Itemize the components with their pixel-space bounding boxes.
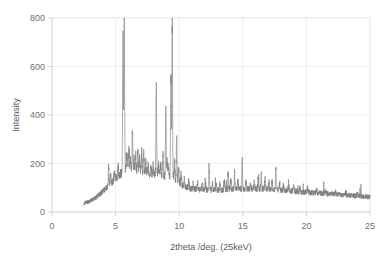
x-tick-label: 25 (365, 221, 375, 231)
y-axis-title: Intensity (11, 98, 21, 132)
y-tick-label: 600 (30, 62, 45, 72)
tick-labels: 02004006008000510152025 (30, 13, 375, 231)
y-tick-label: 800 (30, 13, 45, 23)
x-tick-label: 5 (113, 221, 118, 231)
x-tick-label: 15 (238, 221, 248, 231)
tick-marks (48, 18, 370, 216)
gridlines (52, 18, 370, 212)
y-tick-label: 400 (30, 110, 45, 120)
x-tick-label: 20 (301, 221, 311, 231)
xrd-chart: 02004006008000510152025 2theta /deg. (25… (0, 0, 385, 263)
x-tick-label: 10 (174, 221, 184, 231)
x-axis-title: 2theta /deg. (25keV) (170, 242, 252, 252)
y-tick-label: 0 (40, 207, 45, 217)
chart-canvas: 02004006008000510152025 2theta /deg. (25… (0, 0, 385, 263)
x-tick-label: 0 (49, 221, 54, 231)
xrd-trace (84, 18, 370, 205)
y-tick-label: 200 (30, 159, 45, 169)
data-series (84, 18, 370, 205)
